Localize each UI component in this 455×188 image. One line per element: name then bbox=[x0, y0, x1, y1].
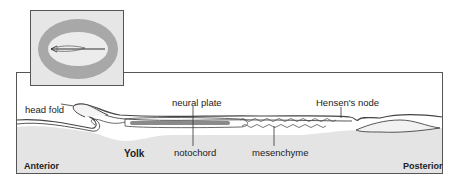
notochord bbox=[130, 121, 230, 125]
inset-drawing bbox=[31, 11, 125, 87]
label-mesenchyme: mesenchyme bbox=[252, 147, 309, 158]
label-yolk: Yolk bbox=[124, 148, 144, 159]
label-hensens-node: Hensen's node bbox=[316, 97, 379, 108]
label-posterior: Posterior bbox=[403, 161, 443, 171]
embryo-inset bbox=[30, 10, 124, 86]
yolk-region bbox=[17, 126, 442, 173]
label-anterior: Anterior bbox=[24, 161, 59, 171]
label-neural-plate: neural plate bbox=[172, 97, 222, 108]
label-notochord: notochord bbox=[174, 147, 216, 158]
label-head-fold: head fold bbox=[25, 104, 64, 115]
